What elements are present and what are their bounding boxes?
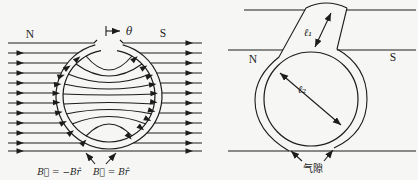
flux-arrowhead — [186, 110, 194, 116]
flux-arrowhead — [143, 115, 152, 123]
l1-label: ℓ₁ — [304, 26, 313, 38]
flux-arrowhead — [17, 80, 25, 86]
flux-arrowhead — [17, 50, 25, 56]
top-line-arrowhead — [186, 40, 194, 46]
flux-arrowhead — [186, 130, 194, 136]
b-left-pointer-arrow — [86, 153, 95, 164]
b-right-pointer-arrow — [106, 153, 116, 164]
flux-arrowhead — [150, 90, 158, 96]
theta-label: θ — [126, 25, 133, 37]
flux-arrowhead — [17, 60, 25, 66]
flux-arrowhead — [186, 120, 194, 126]
top-tangent-line-left — [8, 40, 97, 43]
figure-canvas: θ N S B⃗ = −Br̂ B⃗ = Br̂ ℓ₁ ℓ₂ N S 气隙 — [0, 0, 418, 180]
b-equation-right: B⃗ = Br̂ — [92, 167, 130, 177]
interior-flux-line — [64, 84, 154, 89]
air-gap-label: 气隙 — [303, 162, 323, 174]
flux-arrowhead — [186, 140, 194, 146]
bar-left-edge-and-left-pole-face — [255, 8, 306, 151]
interior-flux-line — [72, 117, 146, 125]
flux-arrowhead — [17, 120, 25, 126]
interior-flux-line — [66, 110, 152, 115]
flux-arrowhead — [17, 90, 25, 96]
air-gap-pointer-right — [324, 150, 333, 161]
flux-arrowhead — [186, 90, 194, 96]
flux-arrowhead — [17, 100, 25, 106]
flux-arrowhead — [186, 148, 194, 154]
interior-flux-line — [63, 94, 155, 95]
flux-arrowhead — [186, 100, 194, 106]
flux-arrowhead — [17, 110, 25, 116]
interior-flux-line — [68, 74, 150, 83]
pole-n-label: N — [26, 28, 35, 40]
b-equation-left: B⃗ = −Br̂ — [36, 167, 82, 177]
interior-flux-line — [86, 56, 132, 70]
pole-s-label: S — [390, 51, 396, 63]
magnetics-figure: θ N S B⃗ = −Br̂ B⃗ = Br̂ ℓ₁ ℓ₂ N S 气隙 — [0, 0, 418, 180]
l2-label: ℓ₂ — [298, 83, 307, 95]
sphere-outer-rim — [56, 45, 162, 149]
flux-arrowhead — [17, 130, 25, 136]
flux-arrowhead — [186, 60, 194, 66]
flux-arrowhead — [186, 80, 194, 86]
flux-arrowhead — [17, 140, 25, 146]
pole-n-label: N — [249, 53, 258, 65]
flux-arrowhead — [17, 148, 25, 154]
air-gap-pointer-left — [291, 151, 302, 161]
flux-arrowhead — [186, 50, 194, 56]
bar-top-arc — [306, 3, 347, 8]
bar-right-edge-and-right-pole-face — [334, 8, 367, 148]
l2-dimension-arrow — [280, 73, 341, 125]
pole-s-label: S — [160, 27, 166, 39]
interior-flux-line — [86, 124, 132, 136]
flux-arrowhead — [186, 70, 194, 76]
left-field-diagram: θ N S B⃗ = −Br̂ B⃗ = Br̂ — [8, 25, 202, 177]
l1-dimension-arrow — [315, 13, 331, 47]
flux-arrowhead — [17, 70, 25, 76]
right-magnetic-circuit-diagram: ℓ₁ ℓ₂ N S 气隙 — [228, 3, 416, 174]
interior-flux-line — [64, 103, 154, 105]
